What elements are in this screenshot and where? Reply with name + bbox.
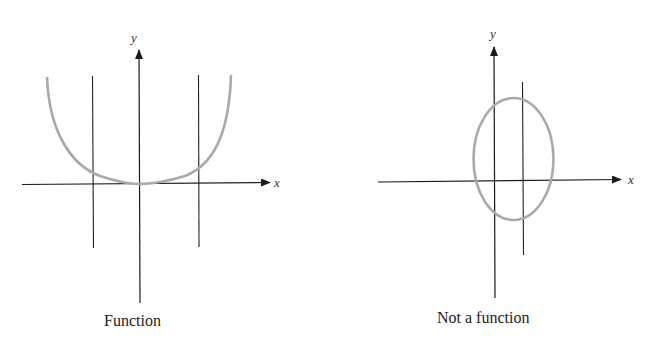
x-axis-label: x bbox=[273, 175, 280, 190]
caption-function: Function bbox=[104, 312, 161, 330]
figure-svg: x y x y bbox=[0, 0, 650, 345]
y-axis-label: y bbox=[129, 30, 137, 45]
y-axis bbox=[139, 50, 140, 303]
ellipse-curve bbox=[474, 98, 554, 220]
function-panel: x y bbox=[22, 30, 280, 303]
not-a-function-panel: x y bbox=[378, 26, 634, 298]
caption-not-a-function: Not a function bbox=[437, 309, 529, 327]
vertical-test-line-left bbox=[93, 76, 94, 248]
y-axis-label: y bbox=[488, 26, 496, 41]
vertical-test-line bbox=[523, 82, 524, 255]
x-axis-label: x bbox=[627, 172, 634, 187]
vertical-line-test-figure: x y x y Function Not a function bbox=[0, 0, 650, 345]
vertical-test-line-right bbox=[199, 75, 200, 247]
x-axis bbox=[378, 180, 621, 183]
y-axis bbox=[494, 47, 495, 298]
